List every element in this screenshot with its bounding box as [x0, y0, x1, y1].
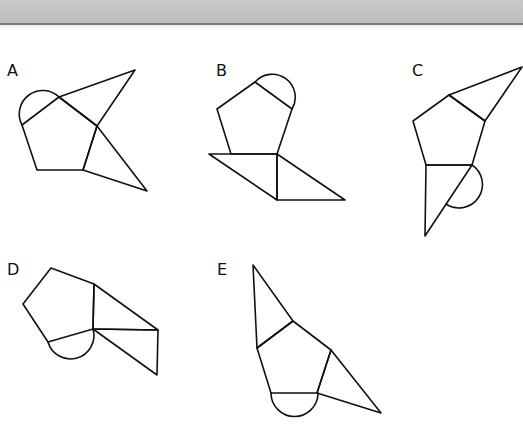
option-figure-a[interactable]	[19, 70, 147, 191]
semicircle-shape	[446, 165, 482, 208]
net-figures	[0, 0, 523, 424]
option-figure-b[interactable]	[209, 74, 345, 200]
triangle-shape	[93, 284, 158, 330]
triangle-shape	[59, 70, 135, 126]
triangle-shape	[83, 126, 147, 191]
triangle-shape	[93, 329, 158, 375]
triangle-shape	[425, 165, 472, 236]
semicircle-shape	[271, 393, 318, 417]
pentagon-shape	[413, 95, 485, 165]
triangle-shape	[317, 350, 381, 413]
triangle-shape	[277, 154, 345, 200]
option-figure-d[interactable]	[23, 268, 158, 375]
triangle-shape	[209, 154, 277, 200]
option-figure-e[interactable]	[253, 265, 381, 417]
semicircle-shape	[255, 74, 295, 109]
pentagon-shape	[23, 268, 94, 342]
option-figure-c[interactable]	[413, 67, 522, 236]
pentagon-shape	[217, 82, 292, 154]
semicircle-shape	[19, 90, 59, 125]
triangle-shape	[449, 67, 522, 121]
semicircle-shape	[48, 329, 94, 359]
triangle-shape	[253, 265, 293, 348]
